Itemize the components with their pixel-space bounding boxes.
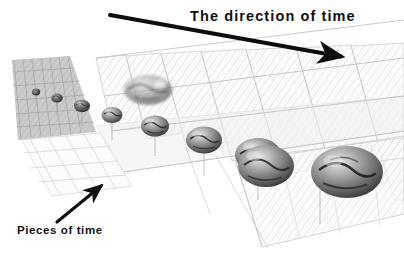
earth-sphere <box>32 89 40 96</box>
earth-sphere <box>102 107 123 123</box>
direction-of-time-label: The direction of time <box>190 8 356 24</box>
pieces-of-time-label: Pieces of time <box>17 224 103 236</box>
figure-container: The direction of time Pieces of time <box>0 0 404 265</box>
earth-sphere-blurred <box>124 75 172 105</box>
earth-sphere <box>51 93 63 102</box>
earth-sphere <box>238 145 294 187</box>
earth-sphere <box>74 100 90 112</box>
earth-sphere <box>141 116 169 137</box>
earth-sphere <box>186 127 222 154</box>
earth-sphere <box>311 146 383 198</box>
